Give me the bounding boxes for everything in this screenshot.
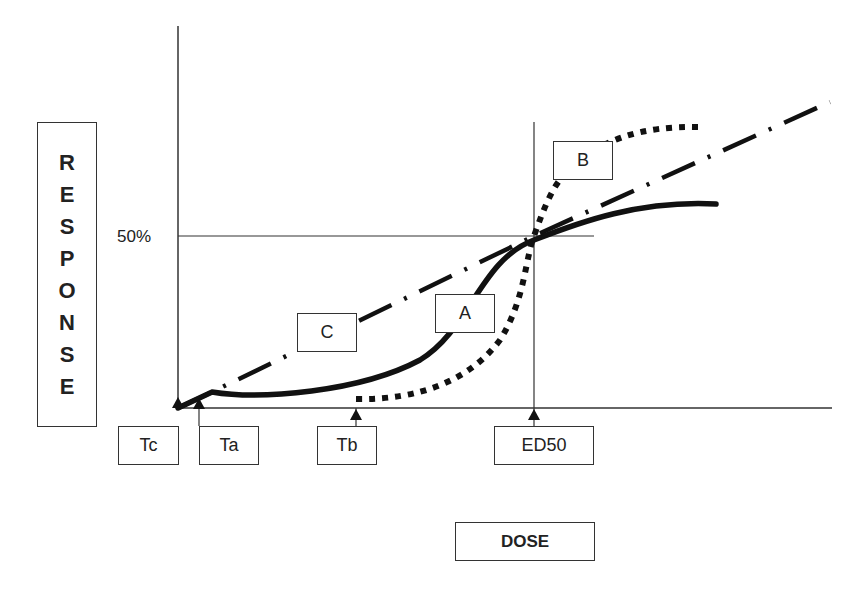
ylabel-letter: S (60, 211, 75, 243)
tb-arrow (350, 408, 362, 426)
dose-response-plot (0, 0, 858, 589)
ylabel-letter: P (60, 243, 75, 275)
y-axis-label: R E S P O N S E (37, 122, 97, 427)
ta-label: Ta (199, 426, 259, 465)
tc-arrow (172, 397, 184, 408)
x-axis-label: DOSE (455, 522, 595, 561)
ylabel-letter: R (59, 147, 75, 179)
tb-label: Tb (317, 426, 377, 465)
ed50-label: ED50 (494, 426, 594, 465)
curve-b (356, 127, 698, 399)
curve-c (178, 102, 830, 408)
curve-b-label: B (553, 141, 613, 180)
curve-c-label: C (297, 313, 357, 352)
ylabel-letter: E (60, 371, 75, 403)
curve-a-label: A (435, 294, 495, 333)
tc-label: Tc (118, 426, 179, 465)
ylabel-letter: E (60, 179, 75, 211)
fifty-percent-label: 50% (117, 227, 151, 247)
ylabel-letter: O (58, 275, 75, 307)
ed50-arrow (528, 408, 540, 426)
ylabel-letter: S (60, 339, 75, 371)
ylabel-letter: N (59, 307, 75, 339)
